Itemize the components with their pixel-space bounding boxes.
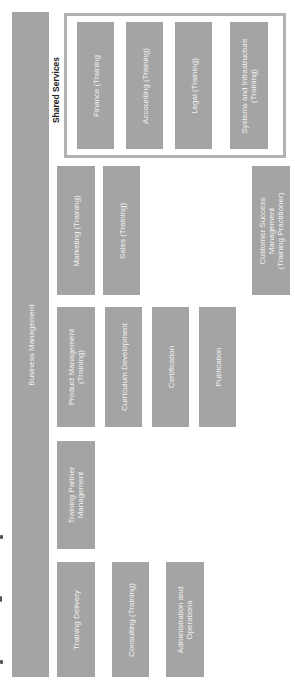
node-label: Accounting (Training) [140, 48, 149, 124]
node-customer-success: Customer Success Management (Training Pr… [252, 166, 290, 295]
node-curriculum-development: Curriculum Development [105, 307, 142, 427]
node-label: Sales (Training) [117, 202, 126, 258]
shared-services-label: Shared Services [51, 57, 61, 123]
node-label: Consulting (Training) [126, 583, 135, 657]
node-administration-operations: Administration and Operations [166, 562, 204, 677]
clipped-text-fragment [0, 660, 3, 664]
node-label: Curriculum Development [119, 323, 128, 411]
node-label: Certification [166, 346, 175, 388]
node-accounting: Accounting (Training) [126, 22, 163, 149]
clipped-text-fragment [0, 596, 2, 602]
node-business-management: Business Management [12, 12, 49, 677]
node-systems-infrastructure: Systems and Infrastructure (Training) [230, 22, 268, 149]
node-legal: Legal (Training) [175, 22, 212, 149]
node-label: Training Delivery [72, 590, 81, 650]
node-sales: Sales (Training) [103, 166, 140, 295]
node-label: Publication [213, 347, 222, 386]
node-label: Training Partner Management [67, 466, 85, 523]
node-marketing: Marketing (Training) [57, 166, 95, 295]
node-training-partner-management: Training Partner Management [57, 441, 95, 549]
node-label: Customer Success Management (Training Pr… [258, 192, 285, 269]
clipped-text-fragment [0, 535, 3, 539]
node-label: Business Management [26, 304, 35, 385]
node-label: Finance (Training [91, 55, 100, 117]
node-training-delivery: Training Delivery [57, 562, 95, 677]
node-product-management: Product Management (Training) [57, 307, 95, 427]
node-publication: Publication [199, 307, 236, 427]
node-label: Administration and Operations [176, 586, 194, 652]
node-label: Legal (Training) [189, 58, 198, 114]
node-consulting: Consulting (Training) [112, 562, 149, 677]
node-label: Product Management (Training) [67, 329, 85, 406]
node-finance: Finance (Training [77, 22, 114, 149]
node-label: Marketing (Training) [72, 195, 81, 266]
node-certification: Certification [152, 307, 189, 427]
node-label: Systems and Infrastructure (Training) [240, 38, 258, 134]
